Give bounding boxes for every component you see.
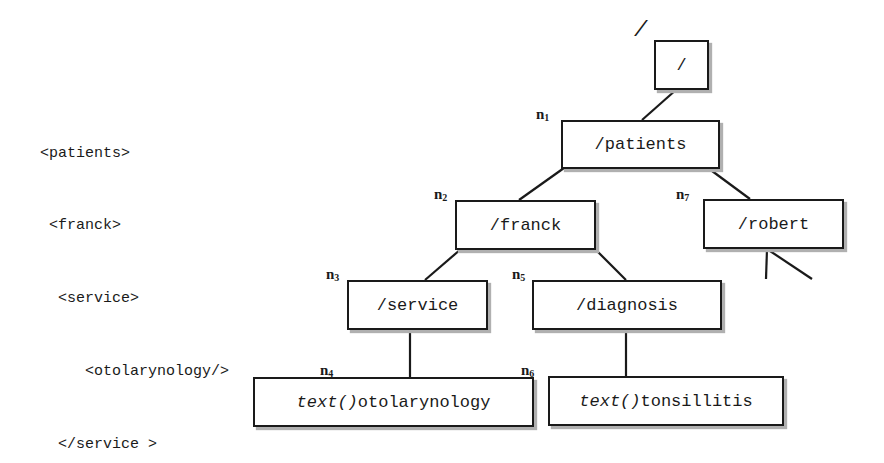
node-text: / bbox=[676, 56, 686, 75]
node-text: /franck bbox=[490, 216, 561, 235]
node-tonsillitis: text()tonsillitis bbox=[548, 376, 784, 426]
root-label: / bbox=[634, 18, 647, 43]
node-text: tonsillitis bbox=[641, 392, 753, 411]
node-patients: /patients bbox=[561, 120, 720, 169]
node-diagnosis: /diagnosis bbox=[532, 280, 722, 330]
node-otolarynology: text()otolarynology bbox=[253, 377, 534, 427]
node-text: /diagnosis bbox=[576, 296, 678, 315]
node-robert: /robert bbox=[703, 199, 844, 249]
node-text: /service bbox=[377, 296, 459, 315]
text-function: text() bbox=[579, 392, 640, 411]
label-n5: n5 bbox=[512, 266, 525, 283]
node-root: / bbox=[654, 40, 709, 90]
node-text: otolarynology bbox=[358, 393, 491, 412]
text-function: text() bbox=[297, 393, 358, 412]
label-n2: n2 bbox=[434, 186, 447, 203]
label-n6: n6 bbox=[521, 362, 534, 379]
node-text: /patients bbox=[595, 135, 687, 154]
label-n3: n3 bbox=[326, 266, 339, 283]
label-n7: n7 bbox=[676, 186, 689, 203]
node-service: /service bbox=[347, 280, 488, 330]
label-n1: n1 bbox=[536, 106, 549, 123]
node-text: /robert bbox=[738, 215, 809, 234]
node-franck: /franck bbox=[455, 200, 596, 250]
